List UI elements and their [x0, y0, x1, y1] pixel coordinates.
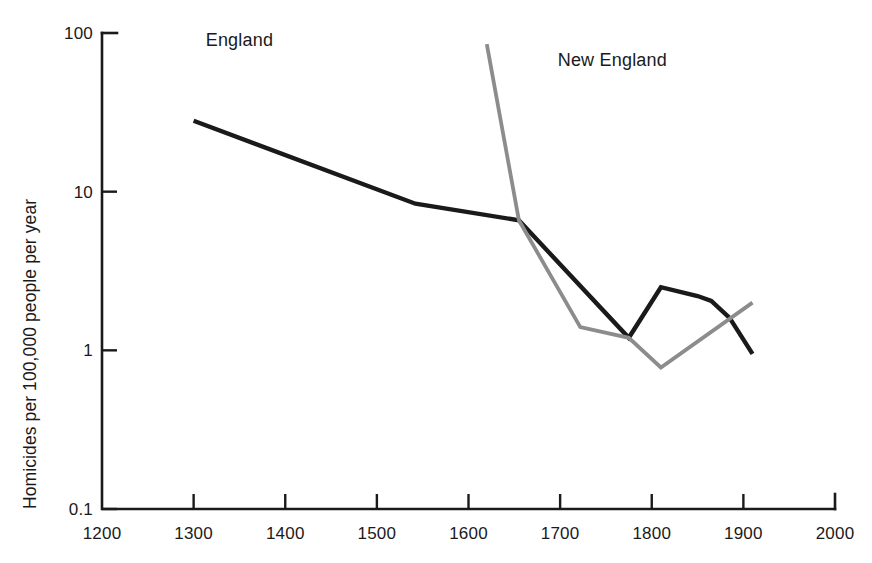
y-tick-label-1: 1	[83, 341, 93, 360]
x-tick-label-1800: 1800	[632, 524, 671, 543]
data-series-group	[194, 44, 753, 367]
series-line-england	[194, 121, 753, 354]
y-axis-ticks	[102, 192, 117, 509]
axis-lines	[102, 33, 835, 509]
x-tick-label-1700: 1700	[541, 524, 580, 543]
x-tick-label-1200: 1200	[83, 524, 122, 543]
x-tick-label-1900: 1900	[724, 524, 763, 543]
series-line-new-england	[487, 44, 753, 367]
y-tick-label-100: 100	[64, 24, 93, 43]
x-axis-ticks	[194, 494, 744, 509]
y-axis-tick-labels: 1001010.1	[64, 24, 93, 519]
x-tick-label-1600: 1600	[449, 524, 488, 543]
homicide-rate-line-chart: 1001010.1 120013001400150016001700180019…	[0, 0, 872, 563]
series-annotation-labels: EnglandNew England	[206, 30, 667, 70]
y-axis-title: Homicides per 100,000 people per year	[20, 199, 40, 509]
x-tick-label-2000: 2000	[816, 524, 855, 543]
x-tick-label-1300: 1300	[174, 524, 213, 543]
series-label-new-england: New England	[558, 50, 667, 70]
y-tick-label-0.1: 0.1	[69, 500, 93, 519]
chart-svg: 1001010.1 120013001400150016001700180019…	[0, 0, 872, 563]
x-axis-tick-labels: 120013001400150016001700180019002000	[83, 524, 855, 543]
series-label-england: England	[206, 30, 273, 50]
y-tick-label-10: 10	[74, 183, 93, 202]
x-tick-label-1400: 1400	[266, 524, 305, 543]
x-tick-label-1500: 1500	[358, 524, 397, 543]
axes	[102, 33, 835, 509]
